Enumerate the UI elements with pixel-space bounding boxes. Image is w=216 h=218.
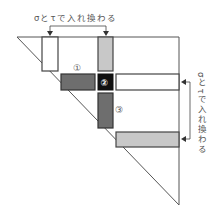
row-block-lightgray-bottom	[116, 132, 179, 147]
column-block-lightgray-top	[98, 37, 113, 71]
matrix-diagram: ① ② ③	[0, 0, 216, 218]
marker-1: ①	[73, 63, 81, 73]
marker-2: ②	[101, 78, 109, 88]
top-swap-bracket	[50, 26, 106, 34]
column-block-3-dark	[98, 93, 113, 128]
top-swap-label: σとτで入れ換わる	[34, 11, 134, 23]
right-swap-bracket	[183, 82, 190, 139]
arrow-left-icon	[181, 136, 186, 142]
arrow-down-icon	[103, 31, 109, 36]
right-swap-label: σとτで入れ換わる	[192, 72, 206, 155]
row-block-1-dark	[61, 74, 95, 90]
arrow-down-icon	[47, 31, 53, 36]
column-block-white-top	[42, 37, 58, 71]
arrow-left-icon	[181, 79, 186, 85]
row-block-white-right	[116, 74, 179, 90]
marker-3: ③	[115, 105, 123, 115]
